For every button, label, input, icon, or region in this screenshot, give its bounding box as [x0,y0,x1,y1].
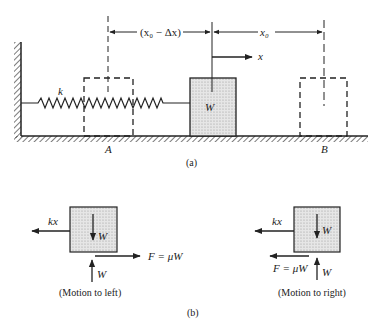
point-a-label: A [104,143,112,155]
fbd-right-friction-label: F = μW [272,262,308,274]
fbd-motion-right: W kx F = μW W (Motion to right) [255,207,346,299]
dim-left-label: (x₀ − Δx) [140,26,181,39]
fbd-right-spring-label: kx [272,215,282,227]
figure-a-caption: (a) [186,157,197,169]
fbd-left-normal-label: W [97,268,107,280]
fbd-left-caption: (Motion to left) [59,287,121,299]
spring-mass-diagram: k W (x₀ − Δx) x₀ x A B (a) W kx F = μW W… [0,0,390,324]
spring [21,98,190,108]
fbd-right-weight-label: W [322,224,332,236]
fbd-left-friction-label: F = μW [147,250,183,262]
wall [14,42,21,138]
fbd-left-spring-label: kx [48,215,58,227]
figure-b-caption: (b) [187,307,199,319]
fbd-motion-left: W kx F = μW W (Motion to left) [32,207,183,299]
fbd-left-weight-label: W [98,230,108,242]
fbd-right-caption: (Motion to right) [278,287,346,299]
point-b-label: B [321,143,328,155]
spring-constant-label: k [58,85,64,97]
floor [14,136,368,142]
x-axis-label: x [257,50,263,62]
fbd-right-normal-label: W [322,266,332,278]
block-weight-label: W [205,101,215,113]
dim-right-label: x₀ [259,26,269,38]
